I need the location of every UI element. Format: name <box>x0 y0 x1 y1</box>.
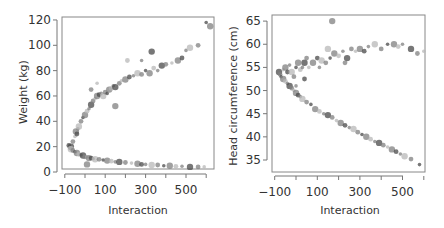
y-tick-label: 20 <box>36 140 51 154</box>
head-y-axis: 35404550556065 <box>246 14 267 167</box>
data-point <box>97 157 102 162</box>
data-point <box>355 130 360 135</box>
data-point <box>130 161 134 165</box>
data-point <box>381 143 386 148</box>
data-point <box>307 66 311 70</box>
y-tick-label: 45 <box>246 107 261 121</box>
figure: 020406080100120 −100100300500 Interactio… <box>0 0 444 228</box>
data-point <box>196 43 201 48</box>
data-point <box>292 74 297 79</box>
weight-x-axis: −100100300500 <box>48 174 206 197</box>
data-point <box>125 58 130 63</box>
head-x-axis-title: Interaction <box>320 204 380 217</box>
data-point <box>180 165 184 169</box>
data-point <box>202 165 206 169</box>
data-point <box>418 163 422 167</box>
data-point <box>379 47 384 52</box>
data-point <box>167 163 173 169</box>
data-point <box>155 163 160 168</box>
data-point <box>139 72 144 77</box>
data-point <box>304 100 309 105</box>
data-point <box>170 61 174 65</box>
data-point <box>341 49 345 53</box>
data-point <box>123 160 128 165</box>
data-point <box>368 137 373 142</box>
y-tick-label: 120 <box>28 13 51 27</box>
weight-plot-frame <box>62 17 214 169</box>
data-point <box>174 164 179 169</box>
data-point <box>294 66 298 70</box>
data-point <box>323 60 328 65</box>
data-point <box>75 132 80 137</box>
data-point <box>304 56 309 61</box>
data-point <box>317 109 322 114</box>
data-point <box>187 164 193 170</box>
data-point <box>325 46 331 52</box>
x-tick-label: 500 <box>391 185 414 199</box>
data-point <box>386 43 390 47</box>
data-point <box>310 60 316 66</box>
head-x-axis: −100100300500 <box>258 176 424 199</box>
data-point <box>139 162 144 167</box>
data-point <box>89 87 94 92</box>
y-tick-label: 80 <box>36 64 51 78</box>
weight-scatter-panel: 020406080100120 −100100300500 Interactio… <box>17 13 214 217</box>
data-point <box>146 70 152 76</box>
data-point <box>162 164 166 168</box>
data-point <box>187 45 193 51</box>
data-point <box>372 41 378 47</box>
data-point <box>343 123 348 128</box>
weight-y-axis-title: Weight (kg) <box>17 60 30 124</box>
data-point <box>301 60 307 66</box>
y-tick-label: 35 <box>246 153 261 167</box>
data-point <box>401 153 407 159</box>
data-point <box>336 53 341 58</box>
data-point <box>76 123 82 129</box>
head-y-axis-title: Head circumference (cm) <box>227 26 240 166</box>
data-point <box>163 62 168 67</box>
data-point <box>112 103 118 109</box>
data-point <box>408 46 414 52</box>
y-tick-label: 50 <box>246 84 261 98</box>
y-tick-label: 55 <box>246 60 261 74</box>
data-point <box>329 18 335 24</box>
y-tick-label: 65 <box>246 14 261 28</box>
data-point <box>149 162 155 168</box>
data-point <box>289 69 295 75</box>
y-tick-label: 40 <box>36 114 51 128</box>
data-point <box>116 159 122 165</box>
data-point <box>95 82 99 86</box>
data-point <box>362 49 367 54</box>
data-point <box>302 77 307 82</box>
data-point <box>127 75 132 80</box>
x-tick-label: 300 <box>134 183 157 197</box>
data-point <box>204 21 208 25</box>
x-tick-label: −100 <box>258 185 291 199</box>
data-point <box>309 103 313 107</box>
data-point <box>140 59 144 63</box>
x-tick-label: 300 <box>348 185 371 199</box>
y-tick-label: 0 <box>43 165 51 179</box>
data-point <box>109 159 114 164</box>
data-point <box>294 84 298 88</box>
data-point <box>295 60 301 66</box>
head-circumference-scatter-panel: 35404550556065 −100100300500 Interaction… <box>227 14 426 217</box>
head-data-points <box>276 18 426 167</box>
data-point <box>415 51 420 56</box>
data-point <box>71 139 76 144</box>
weight-data-points <box>66 21 213 170</box>
x-tick-label: −100 <box>48 183 81 197</box>
data-point <box>149 48 155 54</box>
weight-y-axis: 020406080100120 <box>28 13 57 179</box>
data-point <box>318 66 322 70</box>
x-tick-label: 100 <box>94 183 117 197</box>
data-point <box>180 56 185 61</box>
data-point <box>409 157 414 162</box>
data-point <box>394 149 399 154</box>
x-tick-label: 100 <box>306 185 329 199</box>
data-point <box>367 45 371 49</box>
data-point <box>151 66 156 71</box>
data-point <box>343 60 348 65</box>
data-point <box>386 145 390 149</box>
data-point <box>301 66 305 70</box>
